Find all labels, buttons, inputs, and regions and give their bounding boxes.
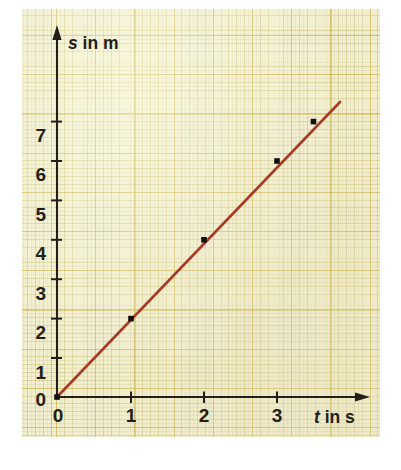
x-axis-arrowhead	[355, 392, 370, 401]
x-tick-label-1: 1	[124, 406, 138, 425]
y-tick-label-6: 6	[26, 165, 46, 184]
y-tick-label-0: 0	[26, 390, 46, 409]
data-point	[128, 316, 134, 322]
y-tick-label-7: 7	[26, 126, 46, 145]
y-tick-label-1: 1	[26, 363, 46, 382]
y-axis-arrowhead	[52, 25, 61, 40]
x-tick-label-3: 3	[270, 406, 284, 425]
y-axis-title-units: in m	[78, 33, 119, 53]
x-tick-label-2: 2	[197, 406, 211, 425]
x-tick-label-0: 0	[51, 406, 65, 425]
y-tick-label-2: 2	[26, 323, 46, 342]
y-axis-title: s in m	[68, 35, 119, 53]
y-tick-label-3: 3	[26, 284, 46, 303]
y-axis-title-variable: s	[68, 33, 78, 53]
data-point	[201, 237, 207, 243]
plot-area	[0, 0, 401, 470]
data-point	[54, 394, 60, 400]
y-tick-label-5: 5	[26, 205, 46, 224]
x-axis-title: t in s	[314, 409, 355, 427]
y-tick-label-4: 4	[26, 244, 46, 263]
data-point	[274, 158, 280, 164]
data-series-line	[57, 102, 340, 397]
x-axis-title-units: in s	[320, 407, 355, 427]
data-point	[311, 119, 317, 125]
figure-container: 7 6 5 4 3 2 1 0 0 1 2 3 s in m t in s	[0, 0, 401, 470]
